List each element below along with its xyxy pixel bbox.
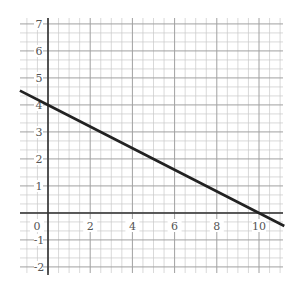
x-tick-label: 0 <box>34 220 41 233</box>
major-grid <box>20 18 283 273</box>
x-tick-label: 6 <box>171 220 178 233</box>
data-series <box>20 91 284 226</box>
y-tick-label: 5 <box>36 72 43 85</box>
line-chart: 7654321-1-20246810 <box>0 0 297 286</box>
data-line <box>20 91 284 226</box>
x-tick-label: 4 <box>129 220 136 233</box>
y-tick-label: 1 <box>36 180 43 193</box>
y-tick-label: 7 <box>36 18 43 31</box>
y-tick-label: 2 <box>36 153 43 166</box>
tick-labels: 7654321-1-20246810 <box>30 18 266 274</box>
axes <box>20 18 283 275</box>
minor-grid <box>20 18 283 273</box>
x-tick-label: 2 <box>87 220 94 233</box>
y-tick-label: -1 <box>34 234 45 247</box>
x-tick-label: 10 <box>252 220 266 233</box>
y-tick-label: -2 <box>34 261 45 274</box>
y-tick-label: 3 <box>36 126 43 139</box>
y-tick-label: 6 <box>36 45 43 58</box>
x-tick-label: 8 <box>213 220 220 233</box>
